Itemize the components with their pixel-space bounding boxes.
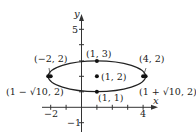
label-neg2-2: (−2, 2) [34, 53, 68, 64]
y-axis-arrow-icon [79, 14, 84, 21]
label-1-2: (1, 2) [101, 71, 127, 82]
ellipse-diagram: −2 4 5 −1 x y (1, 3) (1, 2) (1, 1) (−2, … [0, 0, 196, 138]
point-vertex-right [144, 74, 148, 78]
label-1-3: (1, 3) [86, 48, 112, 59]
point-center-1-2 [95, 74, 99, 78]
point-vertex-left [46, 74, 50, 78]
x-tick-label-neg2: −2 [44, 108, 58, 119]
y-tick-label-5: 5 [72, 24, 78, 35]
y-axis-label: y [73, 8, 80, 19]
label-1-1: (1, 1) [98, 92, 124, 103]
x-tick-label-4: 4 [140, 108, 146, 119]
point-1-3 [95, 59, 99, 63]
label-vertex-left: (1 − √10, 2) [6, 86, 64, 97]
label-vertex-right: (1 + √10, 2) [139, 86, 196, 97]
y-tick-label-neg1: −1 [67, 117, 81, 128]
label-4-2: (4, 2) [139, 53, 165, 64]
